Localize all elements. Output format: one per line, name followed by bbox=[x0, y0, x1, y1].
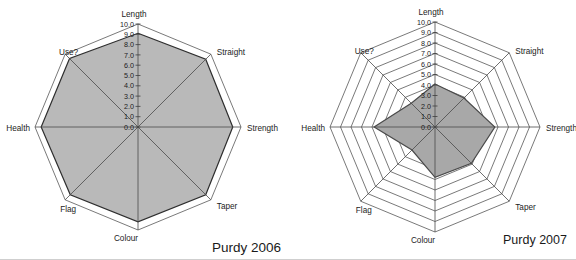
axis-label: Flag bbox=[356, 206, 372, 215]
axis-label: Length bbox=[121, 10, 146, 19]
radar-chart-purdy-2007: 10.09.08.07.06.05.04.03.02.01.00.0Length… bbox=[288, 0, 576, 259]
tick-label: 4.0 bbox=[124, 81, 134, 90]
tick-label: 8.0 bbox=[421, 39, 431, 48]
axis-label: Strength bbox=[247, 124, 278, 133]
tick-label: 0.0 bbox=[124, 123, 134, 132]
axis-label: Colour bbox=[411, 236, 435, 245]
tick-label: 5.0 bbox=[124, 71, 134, 80]
tick-label: 5.0 bbox=[421, 70, 431, 79]
tick-label: 6.0 bbox=[421, 60, 431, 69]
tick-label: 9.0 bbox=[124, 30, 134, 39]
tick-label: 7.0 bbox=[124, 51, 134, 60]
tick-label: 6.0 bbox=[124, 61, 134, 70]
data-polygon bbox=[374, 84, 495, 177]
tick-label: 10.0 bbox=[417, 18, 431, 27]
axis-label: Length bbox=[418, 8, 443, 17]
chart-title-purdy-2006: Purdy 2006 bbox=[212, 240, 281, 255]
tick-label: 1.0 bbox=[124, 112, 134, 121]
tick-label: 9.0 bbox=[421, 28, 431, 37]
tick-label: 10.0 bbox=[120, 20, 134, 29]
axis-label: Straight bbox=[217, 48, 246, 57]
axis-label: Use? bbox=[59, 48, 79, 57]
tick-label: 7.0 bbox=[421, 49, 431, 58]
tick-label: 2.0 bbox=[124, 102, 134, 111]
tick-label: 8.0 bbox=[124, 40, 134, 49]
axis-label: Use? bbox=[355, 47, 375, 56]
axis-label: Health bbox=[6, 124, 30, 133]
axis-label: Straight bbox=[515, 47, 544, 56]
axis-label: Health bbox=[301, 124, 325, 133]
tick-label: 3.0 bbox=[421, 91, 431, 100]
axis-label: Strength bbox=[546, 124, 576, 133]
axis-label: Flag bbox=[60, 205, 76, 214]
tick-label: 4.0 bbox=[421, 81, 431, 90]
tick-label: 1.0 bbox=[421, 112, 431, 121]
radar-comparison-panel: 10.09.08.07.06.05.04.03.02.01.00.0Length… bbox=[0, 0, 576, 260]
axis-label: Taper bbox=[217, 202, 238, 211]
axis-label: Taper bbox=[515, 203, 536, 212]
tick-label: 2.0 bbox=[421, 102, 431, 111]
chart-title-purdy-2007: Purdy 2007 bbox=[503, 233, 567, 247]
axis-label: Colour bbox=[114, 234, 138, 243]
radar-chart-purdy-2006: 10.09.08.07.06.05.04.03.02.01.00.0Length… bbox=[0, 0, 288, 259]
tick-label: 0.0 bbox=[421, 123, 431, 132]
tick-label: 3.0 bbox=[124, 92, 134, 101]
